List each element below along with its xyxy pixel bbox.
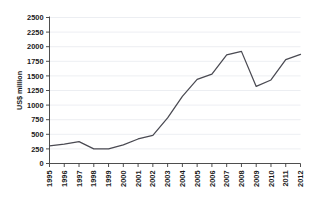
y-tick-label: 1000 (27, 101, 43, 110)
x-tick-label: 2005 (193, 171, 202, 187)
y-tick-label: 0 (39, 159, 43, 168)
x-tick-label: 1998 (89, 171, 98, 187)
x-tick-label: 2009 (252, 171, 261, 187)
y-axis-title: US$ million (15, 71, 24, 110)
y-tick-label: 2500 (27, 13, 43, 22)
y-tick-label: 1250 (27, 86, 43, 95)
x-tick-label: 2006 (208, 171, 217, 187)
x-tick-label: 2003 (163, 171, 172, 187)
x-tick-label: 2000 (119, 171, 128, 187)
x-tick-label: 2008 (237, 171, 246, 187)
x-tick-label: 2011 (281, 171, 290, 187)
chart-figure: 0250500750100012501500175020002250250019… (0, 0, 319, 210)
x-tick-label: 1999 (104, 171, 113, 187)
y-tick-label: 250 (31, 145, 43, 154)
x-tick-label: 2007 (222, 171, 231, 187)
x-tick-label: 2004 (178, 170, 187, 187)
x-tick-label: 2012 (296, 171, 305, 187)
y-tick-label: 500 (31, 130, 43, 139)
y-tick-label: 2000 (27, 42, 43, 51)
y-tick-label: 1750 (27, 57, 43, 66)
line-chart: 0250500750100012501500175020002250250019… (0, 0, 319, 210)
y-tick-label: 1500 (27, 72, 43, 81)
x-tick-label: 1997 (75, 171, 84, 187)
x-tick-label: 2002 (148, 171, 157, 187)
x-tick-label: 2001 (134, 171, 143, 187)
x-tick-label: 1996 (60, 171, 69, 187)
x-tick-label: 2010 (267, 171, 276, 187)
y-tick-label: 2250 (27, 28, 43, 37)
x-tick-label: 1995 (45, 171, 54, 187)
y-tick-label: 750 (31, 115, 43, 124)
